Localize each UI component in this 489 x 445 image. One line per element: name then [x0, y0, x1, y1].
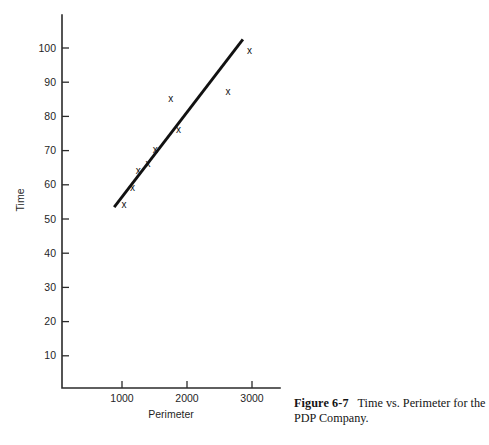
y-tick-label: 50: [44, 213, 56, 225]
x-tick-label: 2000: [175, 392, 199, 404]
x-tick-label: 1000: [110, 392, 134, 404]
data-point-markers: xxxxxxxxx: [121, 45, 251, 210]
time-vs-perimeter-scatter-plot: 102030405060708090100 100020003000 xxxxx…: [0, 0, 489, 445]
data-point-marker: x: [153, 144, 158, 155]
x-axis-ticks: 100020003000: [110, 381, 264, 404]
axes: [62, 15, 280, 388]
data-point-marker: x: [121, 199, 126, 210]
y-axis-ticks: 102030405060708090100: [38, 42, 69, 362]
y-tick-label: 90: [44, 76, 56, 88]
y-tick-label: 80: [44, 110, 56, 122]
figure-6-7: 102030405060708090100 100020003000 xxxxx…: [0, 0, 489, 445]
x-tick-label: 3000: [240, 392, 264, 404]
y-axis-title: Time: [14, 188, 26, 211]
x-axis-title: Perimeter: [148, 408, 194, 420]
figure-caption: Figure 6-7Time vs. Perimeter for the PDP…: [294, 396, 486, 426]
y-tick-label: 40: [44, 247, 56, 259]
data-point-marker: x: [136, 165, 141, 176]
y-tick-label: 10: [44, 349, 56, 361]
y-tick-label: 30: [44, 281, 56, 293]
data-point-marker: x: [130, 182, 135, 193]
data-point-marker: x: [146, 158, 151, 169]
data-point-marker: x: [168, 93, 173, 104]
y-tick-label: 70: [44, 144, 56, 156]
figure-caption-label: Figure 6-7: [294, 396, 349, 410]
y-tick-label: 100: [38, 42, 56, 54]
y-tick-label: 20: [44, 315, 56, 327]
axis-lines: [62, 15, 280, 388]
y-tick-label: 60: [44, 178, 56, 190]
data-point-marker: x: [247, 45, 252, 56]
data-point-marker: x: [225, 86, 230, 97]
data-point-marker: x: [176, 124, 181, 135]
